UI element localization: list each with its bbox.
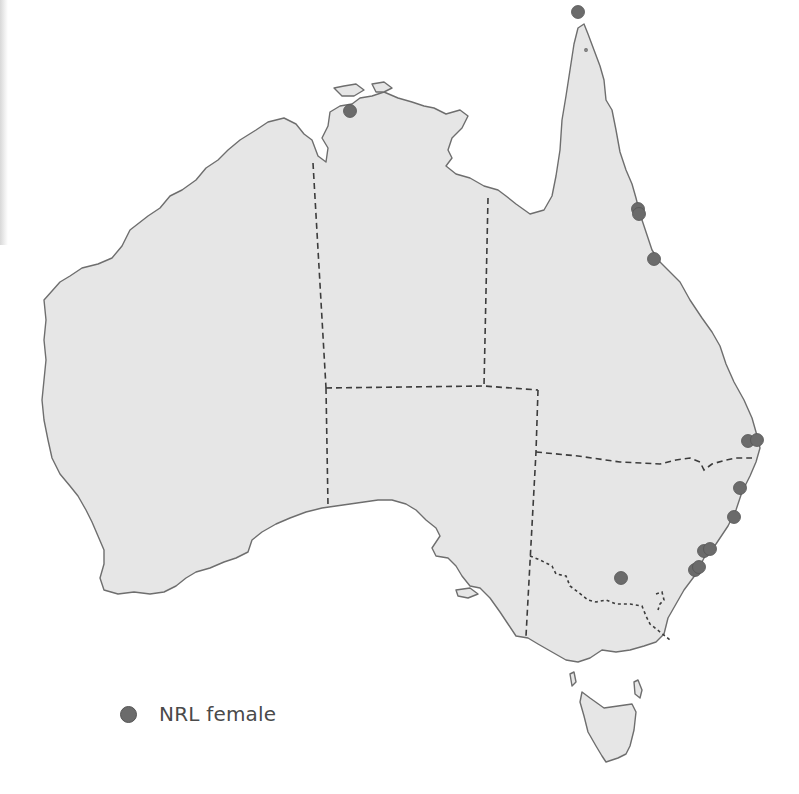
- marker-dot[interactable]: [572, 6, 585, 19]
- marker-dot[interactable]: [615, 572, 628, 585]
- marker-dot[interactable]: [633, 208, 646, 221]
- legend-circle-icon: [120, 706, 137, 723]
- tiwi-island: [372, 82, 392, 92]
- kangaroo-island: [456, 588, 478, 598]
- marker-dot[interactable]: [693, 561, 706, 574]
- marker-dot[interactable]: [728, 511, 741, 524]
- marker-dot[interactable]: [704, 543, 717, 556]
- legend-label: NRL female: [159, 702, 276, 726]
- tasmania: [580, 692, 636, 762]
- island: [585, 49, 587, 51]
- marker-dot[interactable]: [734, 482, 747, 495]
- king-island: [570, 672, 576, 686]
- marker-dot[interactable]: [648, 253, 661, 266]
- flinders-island: [634, 680, 642, 698]
- marker-dot[interactable]: [344, 105, 357, 118]
- melville-island: [334, 84, 364, 96]
- marker-dot[interactable]: [751, 434, 764, 447]
- mainland-australia: [42, 24, 760, 662]
- legend: NRL female: [120, 702, 276, 726]
- australia-map: [0, 0, 799, 794]
